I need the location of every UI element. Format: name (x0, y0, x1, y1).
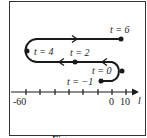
tick-label-0: 0 (109, 96, 114, 107)
label-t2: t = 2 (70, 47, 90, 58)
figure-caption: Figure (52, 133, 81, 138)
label-t4: t = 4 (34, 46, 54, 57)
label-t0: t = 0 (92, 65, 112, 76)
point-tminus1 (99, 79, 104, 84)
label-t6: t = 6 (110, 24, 130, 35)
point-t0 (120, 69, 125, 74)
tick-label-10: 10 (120, 96, 130, 107)
label-tminus1: t = −1 (67, 76, 93, 87)
point-t6 (119, 37, 124, 42)
l-axis (11, 89, 135, 95)
tick-label-minus60: -60 (13, 96, 26, 107)
axis-label-l: l (138, 95, 141, 106)
figure-frame (10, 2, 146, 136)
point-t4 (25, 49, 30, 54)
path-diagram: t = 6 t = 4 t = 2 t = 0 t = −1 -60 0 10 … (0, 0, 147, 138)
point-t2 (73, 60, 78, 65)
